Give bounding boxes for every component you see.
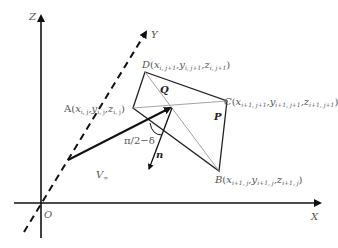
point-p-label: P [213,111,222,122]
origin-label: O [44,209,52,220]
y-axis-label: Y [151,29,159,40]
freestream-label: V∞ [96,169,108,181]
z-axis-label: Z [28,11,37,22]
x-axis-label: X [310,211,319,222]
vertex-b-label: B(xi+1, j,yi+1, j,zi+1, j) [214,174,303,187]
panel-quadrilateral [133,72,227,171]
point-q-label: Q [160,84,169,95]
normal-label: n [156,149,163,160]
panel-geometry-diagram: Z Y X O A(xi, j,yi, j,zi, j) D(xi, j+1,y… [0,0,338,248]
vertex-d-label: D(xi, j+1,yi, j+1,zi, j+1) [141,59,230,72]
diagonal-ac [133,101,227,108]
vertex-c-label: C(xi+1, j+1,yi+1, j+1,zi+1, j+1) [224,96,338,109]
y-axis [24,32,146,232]
angle-label: π/2−δ [124,135,155,146]
vertex-a-label: A(xi, j,yi, j,zi, j) [63,103,125,116]
